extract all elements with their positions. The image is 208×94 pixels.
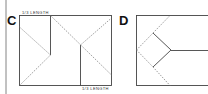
figure-d: D: [119, 13, 208, 86]
figure-c-fold: [81, 18, 112, 45]
figure-c: C 1/3 LENGTH 1/3 LENGTH: [7, 10, 112, 91]
figure-d-fold: [153, 16, 170, 34]
fold-diagram: C 1/3 LENGTH 1/3 LENGTH D: [0, 0, 208, 94]
figure-c-fold: [20, 27, 51, 55]
figure-d-cut-chevron: [153, 33, 171, 67]
figure-d-fold: [153, 67, 170, 86]
figure-d-fold: [137, 50, 154, 67]
figure-c-label: C: [7, 13, 17, 28]
figure-d-label: D: [119, 13, 128, 28]
figure-c-fold: [20, 55, 51, 86]
figure-c-fold: [51, 16, 112, 76]
figure-c-outline: [20, 16, 112, 86]
bottom-length-annotation: 1/3 LENGTH: [82, 86, 109, 91]
figure-d-fold: [137, 33, 154, 50]
top-length-annotation: 1/3 LENGTH: [22, 10, 49, 15]
